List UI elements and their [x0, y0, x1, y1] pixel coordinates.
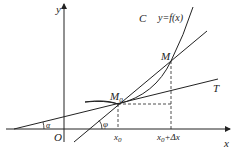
point-m0-label: M0	[109, 90, 123, 104]
tangent-line	[14, 79, 218, 129]
x-axis-label: x	[223, 137, 229, 149]
point-m-label: M	[160, 50, 171, 62]
x0-label: x0	[113, 132, 122, 144]
tangent-label: T	[213, 82, 220, 94]
curve-equation-label: y=f(x)	[157, 12, 184, 24]
angle-alpha-arc	[43, 122, 44, 129]
origin-label: O	[54, 131, 62, 143]
x0-plus-dx-label: x0+Δx	[156, 132, 180, 144]
diagram-svg: y x O C y=f(x) M M0 T α φ x0 x0+Δx	[0, 0, 234, 158]
curve-name-label: C	[139, 12, 147, 24]
y-axis-label: y	[55, 3, 61, 15]
angle-phi-label: φ	[103, 119, 108, 129]
diagram: y x O C y=f(x) M M0 T α φ x0 x0+Δx	[0, 0, 234, 158]
